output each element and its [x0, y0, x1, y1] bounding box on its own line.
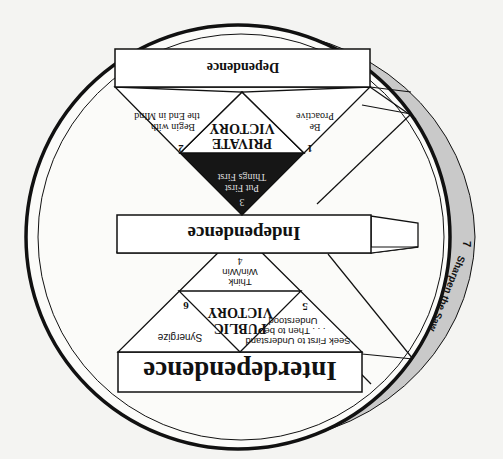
habit-6-label: Synergize — [157, 332, 202, 343]
public-victory-line2: VICTORY — [207, 305, 272, 320]
dependence-level: Dependence — [115, 49, 370, 87]
interdependence-level: Interdependence — [118, 352, 362, 392]
habit-5-number: 5 — [302, 301, 308, 313]
habit-4-line2: Win/Win — [222, 267, 257, 278]
habit-1-number: 1 — [307, 143, 313, 155]
private-victory-line1: PRIVATE — [212, 136, 272, 151]
habit-5-line3: Understood — [268, 316, 317, 327]
private-victory-line2: VICTORY — [209, 121, 274, 136]
habit-2-line2: the End in Mind — [134, 111, 199, 122]
habit-2-line1: Begin with — [151, 122, 195, 133]
interdependence-label: Interdependence — [143, 356, 336, 386]
dependence-label: Dependence — [207, 60, 279, 75]
habit-7-number: 7 — [461, 241, 473, 247]
habit-6-number: 6 — [183, 300, 189, 312]
independence-level: Independence — [117, 215, 418, 253]
maturity-continuum-diagram: Interdependence Seek First to Understand… — [0, 0, 503, 459]
habit-1-line2: Proactive — [296, 111, 334, 122]
habit-3-line2: Things First — [217, 172, 266, 183]
habit-4-number: 4 — [237, 256, 242, 266]
habit-3-line1: Put First — [225, 183, 259, 194]
habit-3-number: 3 — [240, 197, 245, 208]
independence-label: Independence — [188, 223, 301, 244]
habit-2-number: 2 — [178, 143, 184, 155]
public-victory-line1: PUBLIC — [214, 321, 267, 336]
habit-1-line1: Be — [309, 122, 321, 133]
